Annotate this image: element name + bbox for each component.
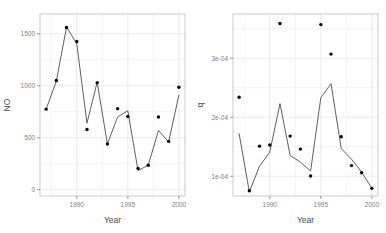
plot-background: [40, 14, 185, 196]
data-point: [319, 23, 322, 26]
data-point: [177, 86, 180, 89]
y-tick-label: 1500: [21, 30, 36, 37]
x-tick-label: 1995: [121, 201, 136, 208]
y-axis-title: NO: [2, 98, 12, 111]
data-point: [237, 95, 240, 98]
data-point: [157, 115, 160, 118]
data-point: [288, 134, 291, 137]
data-point: [116, 107, 119, 110]
data-point: [147, 164, 150, 167]
data-point: [85, 128, 88, 131]
data-point: [95, 81, 98, 84]
data-point: [360, 171, 363, 174]
data-point: [65, 26, 68, 29]
data-point: [75, 40, 78, 43]
y-tick-label: 1000: [21, 82, 36, 89]
data-point: [329, 52, 332, 55]
data-point: [350, 164, 353, 167]
data-point: [278, 22, 281, 25]
data-point: [126, 115, 129, 118]
data-point: [299, 147, 302, 150]
x-tick-label: 1990: [70, 201, 85, 208]
x-tick-label: 1995: [314, 201, 329, 208]
y-tick-label: 3e-04: [211, 55, 228, 62]
data-point: [106, 142, 109, 145]
data-point: [258, 144, 261, 147]
y-tick-label: 2e-04: [211, 114, 228, 121]
y-tick-label: 0: [31, 186, 35, 193]
panel-q-chart: 1990199520001e-042e-043e-04Yearq: [193, 0, 386, 233]
data-point: [44, 107, 47, 110]
x-axis-title: Year: [104, 215, 121, 225]
figure-container: 199019952000050010001500YearNO 199019952…: [0, 0, 386, 233]
data-point: [309, 174, 312, 177]
y-tick-label: 1e-04: [211, 173, 228, 180]
x-tick-label: 2000: [172, 201, 187, 208]
data-point: [136, 167, 139, 170]
plot-background: [233, 14, 378, 196]
y-axis-title: q: [195, 102, 205, 107]
data-point: [268, 143, 271, 146]
x-axis-title: Year: [297, 215, 314, 225]
data-point: [370, 187, 373, 190]
x-tick-label: 1990: [263, 201, 278, 208]
y-tick-label: 500: [24, 134, 35, 141]
panel-no-chart: 199019952000050010001500YearNO: [0, 0, 193, 233]
data-point: [248, 189, 251, 192]
data-point: [55, 79, 58, 82]
x-tick-label: 2000: [365, 201, 380, 208]
data-point: [340, 135, 343, 138]
data-point: [167, 140, 170, 143]
